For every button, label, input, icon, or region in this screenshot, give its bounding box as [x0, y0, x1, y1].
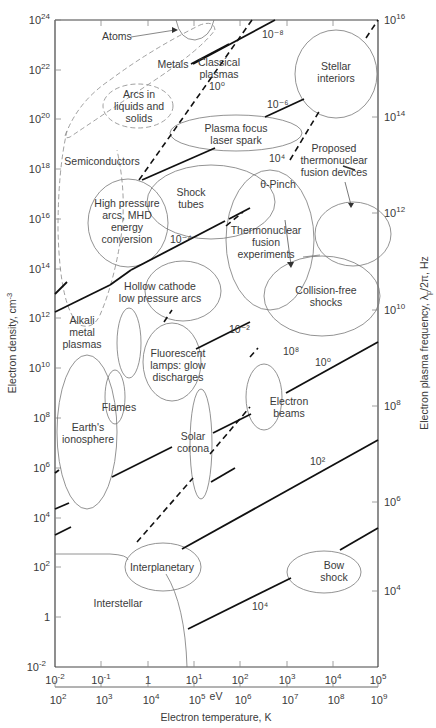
label-shock-tubes: tubes [178, 198, 204, 210]
label-flames: Flames [102, 401, 136, 413]
label-high-pressure: High pressure [94, 197, 160, 209]
label-plasma-focus: Plasma focus [204, 122, 267, 134]
y-tick-label: 1 [44, 611, 50, 623]
label-bow-shock: shock [320, 571, 348, 583]
x2-tick-label: 109 [371, 692, 388, 706]
label-alkali: metal [69, 326, 95, 338]
label-atoms: Atoms [102, 30, 132, 42]
label-bow-shock: Bow [324, 559, 345, 571]
debye-label: 10⁻⁸ [262, 28, 284, 40]
x2-tick-label: 102 [50, 692, 67, 706]
label-fluorescent: lamps: glow [150, 359, 206, 371]
y2-tick-label: 1012 [384, 205, 406, 219]
interstellar-boundary [55, 554, 128, 560]
label-electron-beams: Electron [270, 395, 309, 407]
y-tick-label: 1020 [29, 111, 51, 125]
y2-tick-label: 106 [384, 494, 401, 508]
y2-tick-label: 108 [384, 398, 401, 412]
label-metals: Metals [158, 58, 189, 70]
label-stellar: Stellar [321, 60, 351, 72]
debye-label: 10⁻⁴ [170, 233, 192, 245]
y-tick-label: 1022 [29, 62, 51, 76]
y-tick-label: 1024 [29, 12, 51, 26]
label-arcs: solids [126, 112, 153, 124]
y-tick-label: 10-2 [27, 659, 47, 673]
region-labels: Atoms Metals Arcs in liquids and solids … [62, 27, 368, 609]
label-interstellar: Interstellar [93, 597, 143, 609]
label-electron-beams: beams [273, 407, 305, 419]
y-tick-label: 1016 [29, 211, 51, 225]
y-tick-label: 1018 [29, 161, 51, 175]
debye-label: 10² [310, 455, 326, 467]
y2-tick-label: 104 [384, 583, 401, 597]
y-tick-label: 106 [33, 460, 50, 474]
label-alkali: Alkali [69, 314, 94, 326]
x2-tick-label: 107 [282, 692, 299, 706]
alkali-region [117, 308, 141, 378]
label-hollow-cathode: Hollow cathode [124, 280, 196, 292]
label-fluorescent: discharges [153, 371, 204, 383]
x-axis-title: eV [210, 690, 223, 702]
y2-tick-label: 1010 [384, 302, 406, 316]
y-tick-label: 102 [33, 559, 50, 573]
debye-label: 10⁻² [229, 323, 250, 335]
x2-tick-label: 106 [235, 692, 252, 706]
debye-label: 10⁴ [252, 600, 268, 612]
x2-tick-label: 103 [96, 692, 113, 706]
label-theta-pinch: θ-Pinch [260, 178, 296, 190]
label-collision-free: shocks [310, 296, 343, 308]
label-proposed: Proposed [312, 142, 357, 154]
top-ticks [101, 20, 333, 26]
label-arcs: liquids and [114, 100, 164, 112]
x2-tick-label: 105 [189, 692, 206, 706]
y-axis-right: 1016 1014 1012 1010 108 106 104 [372, 12, 406, 597]
label-high-pressure: arcs, MHD [102, 209, 152, 221]
label-solar-corona: corona [177, 442, 209, 454]
y-tick-label: 1012 [29, 310, 51, 324]
debye-label: 10⁻⁶ [267, 98, 289, 110]
label-stellar: interiors [317, 72, 354, 84]
label-thermonuclear: fusion [252, 236, 280, 248]
label-shock-tubes: Shock [176, 186, 206, 198]
plasma-param-label: 10⁸ [283, 345, 299, 357]
x-axis-kelvin: 102 103 104 105 106 107 108 109 Electron… [50, 681, 388, 723]
label-hollow-cathode: low pressure arcs [119, 292, 201, 304]
y-tick-label: 1014 [29, 261, 51, 275]
x2-tick-label: 108 [328, 692, 345, 706]
y2-tick-label: 1016 [384, 12, 406, 26]
y2-axis-title: Electron plasma frequency, λp/2π, Hz [418, 256, 433, 429]
label-semiconductors: Semiconductors [64, 155, 139, 167]
label-alkali: plasmas [62, 338, 101, 350]
x2-tick-label: 104 [143, 692, 160, 706]
label-arcs: Arcs in [123, 88, 155, 100]
label-interplanetary: Interplanetary [130, 561, 195, 573]
x2-axis-title: Electron temperature, K [161, 711, 272, 723]
label-classical: plasmas [199, 68, 238, 80]
label-thermonuclear: Thermonuclear [231, 224, 302, 236]
flames-region [105, 370, 125, 424]
label-thermonuclear: experiments [237, 248, 294, 260]
label-high-pressure: energy [111, 221, 144, 233]
label-proposed: fusion devices [301, 166, 368, 178]
debye-length-lines [55, 20, 378, 629]
y-axis-title: Electron density, cm-3 [5, 293, 18, 393]
debye-label: 10⁰ [315, 356, 331, 368]
label-plasma-focus: laser spark [210, 134, 262, 146]
y-tick-label: 1010 [29, 360, 51, 374]
plasma-param-label: 10⁰ [209, 80, 225, 92]
y-tick-label: 104 [33, 510, 50, 524]
label-ionosphere: Earth's [72, 421, 104, 433]
label-ionosphere: ionosphere [62, 433, 114, 445]
plasma-parameter-chart: 1024 1022 1020 1018 1016 1014 1012 1010 … [0, 0, 436, 728]
label-fluorescent: Fluorescent [151, 347, 206, 359]
plasma-param-label: 10⁴ [269, 152, 285, 164]
y-axis-left: 1024 1022 1020 1018 1016 1014 1012 1010 … [27, 12, 61, 673]
label-high-pressure: conversion [102, 233, 153, 245]
label-classical: Classical [198, 56, 240, 68]
label-solar-corona: Solar [181, 430, 206, 442]
label-proposed: thermonuclear [300, 154, 368, 166]
y-tick-label: 108 [33, 410, 50, 424]
y2-tick-label: 1014 [384, 109, 406, 123]
label-collision-free: Collision-free [295, 284, 356, 296]
